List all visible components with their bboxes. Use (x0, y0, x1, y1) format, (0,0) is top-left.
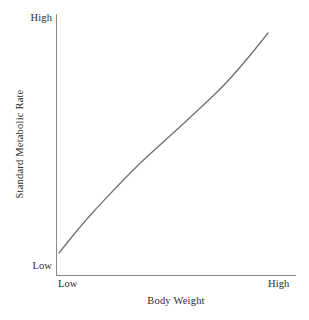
chart-plot-area (0, 0, 309, 320)
x-axis-title: Body Weight (56, 296, 296, 307)
chart-figure: High Low Low High Standard Metabolic Rat… (0, 0, 309, 320)
metabolic-rate-curve (59, 33, 268, 253)
y-axis-tick-high: High (31, 13, 52, 24)
y-axis-tick-low: Low (32, 261, 52, 272)
x-axis-tick-low: Low (58, 279, 78, 290)
x-axis-tick-high: High (268, 279, 289, 290)
y-axis-title: Standard Metabolic Rate (12, 14, 28, 274)
